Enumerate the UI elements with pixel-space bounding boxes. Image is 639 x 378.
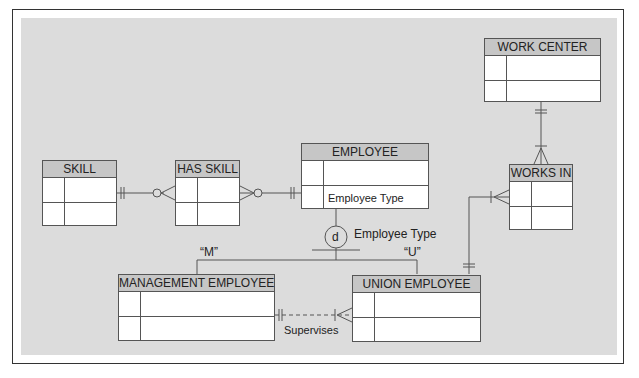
entity-works-in[interactable]: WORKS IN [509, 164, 573, 230]
entity-has-skill[interactable]: HAS SKILL [175, 160, 240, 226]
entity-has-skill-name: HAS SKILL [176, 161, 239, 178]
attribute-employee-type: Employee Type [328, 186, 404, 209]
discriminator-label: Employee Type [354, 227, 437, 241]
entity-employee-name: EMPLOYEE [302, 144, 428, 161]
entity-management-employee-name: MANAGEMENT EMPLOYEE [119, 275, 274, 292]
entity-union-employee[interactable]: UNION EMPLOYEE [352, 275, 481, 342]
entity-union-employee-name: UNION EMPLOYEE [353, 276, 480, 293]
entity-employee[interactable]: EMPLOYEE Employee Type [301, 143, 429, 209]
entity-works-in-name: WORKS IN [510, 165, 572, 182]
disjoint-symbol: d [332, 230, 339, 244]
entity-skill-name: SKILL [43, 161, 116, 178]
entity-work-center-name: WORK CENTER [485, 39, 600, 56]
entity-skill[interactable]: SKILL [42, 160, 117, 226]
subtype-value-m: “M” [200, 245, 218, 259]
entity-work-center[interactable]: WORK CENTER [484, 38, 601, 102]
subtype-value-u: “U” [404, 245, 421, 259]
entity-management-employee[interactable]: MANAGEMENT EMPLOYEE [118, 274, 275, 341]
relationship-supervises-label: Supervises [284, 324, 338, 336]
